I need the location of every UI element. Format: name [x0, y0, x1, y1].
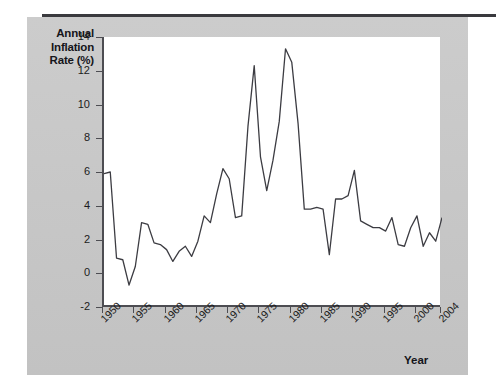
y-tick-mark: [96, 71, 102, 72]
y-tick-mark: [96, 105, 102, 106]
y-tick-label: 8: [60, 131, 90, 143]
y-tick-mark: [96, 206, 102, 207]
y-tick-label: 14: [60, 30, 90, 42]
y-tick-label: 6: [60, 165, 90, 177]
y-tick-label: 12: [60, 64, 90, 76]
y-tick-label: 2: [60, 233, 90, 245]
x-axis-title: Year: [404, 354, 428, 366]
y-tick-mark: [96, 240, 102, 241]
plot-area: [102, 37, 440, 307]
y-tick-label: -2: [60, 300, 90, 312]
y-tick-label: 4: [60, 199, 90, 211]
y-tick-mark: [96, 37, 102, 38]
inflation-line-series: [104, 37, 442, 307]
y-tick-mark: [96, 172, 102, 173]
y-tick-label: 0: [60, 266, 90, 278]
y-tick-mark: [96, 138, 102, 139]
y-tick-mark: [96, 273, 102, 274]
inflation-chart-figure: Annual Inflation Rate (%) 14121086420-21…: [0, 0, 496, 385]
y-tick-label: 10: [60, 98, 90, 110]
